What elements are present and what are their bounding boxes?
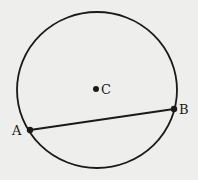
circle-diagram: A B C — [0, 0, 198, 180]
point-a — [27, 127, 33, 133]
label-c: C — [101, 82, 111, 97]
point-c-center — [93, 86, 99, 92]
chord-ab — [30, 109, 174, 130]
label-b: B — [179, 102, 189, 117]
point-b — [171, 106, 177, 112]
label-a: A — [11, 123, 22, 138]
